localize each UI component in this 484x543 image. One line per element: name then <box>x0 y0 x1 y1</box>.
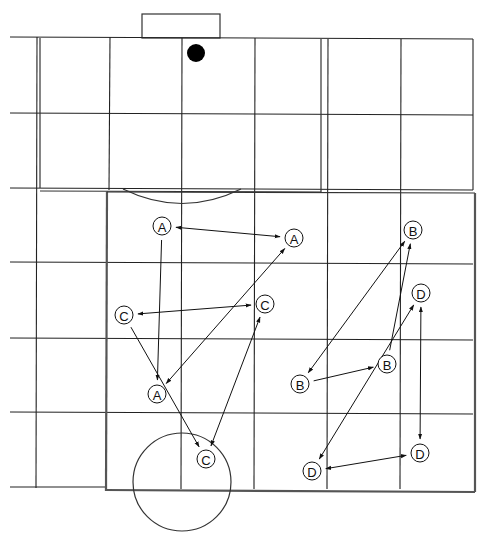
player-label: B <box>383 358 392 373</box>
player-label: C <box>119 309 128 324</box>
player-label: D <box>307 465 316 480</box>
grid-line <box>36 37 37 488</box>
arrow-c1-c2 <box>138 305 251 314</box>
player-c1: C <box>115 306 133 324</box>
arrow-a1-a2 <box>176 227 280 236</box>
player-d3: D <box>411 444 429 462</box>
center-circle <box>133 433 231 531</box>
arrow-b2-b3 <box>314 367 374 381</box>
grid-line <box>327 39 328 489</box>
player-d1: D <box>412 284 430 302</box>
player-label: B <box>409 224 418 239</box>
horizontal-grid-lines <box>10 37 473 487</box>
arrow-b1-b2 <box>308 241 404 372</box>
grid-line <box>10 37 473 39</box>
floor-plan-diagram: AAABBBCCCDDD <box>0 0 484 543</box>
grid-line <box>10 262 473 264</box>
player-a3: A <box>148 385 166 403</box>
player-b3: B <box>378 355 396 373</box>
arrow-d1-d3 <box>420 307 421 439</box>
player-label: A <box>158 220 167 235</box>
grid-line <box>10 412 473 414</box>
player-c3: C <box>197 450 215 468</box>
ball-marker <box>187 44 205 62</box>
grid-line <box>10 338 473 340</box>
player-label: D <box>415 447 424 462</box>
arrow-c1-c3 <box>131 327 199 447</box>
player-label: C <box>201 453 210 468</box>
arrow-d2-d3 <box>326 455 406 468</box>
grid-line <box>10 113 473 115</box>
player-b1: B <box>404 221 422 239</box>
player-d2: D <box>303 462 321 480</box>
wall <box>106 490 475 492</box>
player-c2: C <box>256 295 274 313</box>
player-label: D <box>416 287 425 302</box>
vertical-grid-lines <box>36 37 473 489</box>
upper-room-walls <box>40 38 321 192</box>
player-a1: A <box>153 217 171 235</box>
arrow-c2-c3 <box>211 317 260 446</box>
grid-line <box>10 188 473 190</box>
arrow-a1-a3 <box>157 240 161 380</box>
arrow-d1-d2 <box>319 305 413 459</box>
player-label: A <box>153 388 162 403</box>
grid-line <box>181 38 182 489</box>
player-label: C <box>260 298 269 313</box>
arrow-a2-a3 <box>166 249 285 384</box>
wall <box>107 192 475 193</box>
grid-line <box>400 39 401 489</box>
players: AAABBBCCCDDD <box>115 217 430 480</box>
player-a2: A <box>285 229 303 247</box>
top-box <box>142 14 220 38</box>
wall <box>106 191 107 491</box>
player-label: A <box>290 232 299 247</box>
grid-line <box>254 38 255 489</box>
grid-line <box>109 37 110 190</box>
player-label: B <box>296 378 305 393</box>
player-b2: B <box>291 375 309 393</box>
